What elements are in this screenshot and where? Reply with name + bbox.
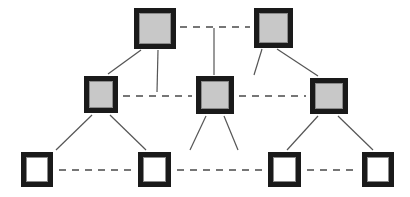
tier-link: [56, 115, 92, 150]
tier-link: [287, 116, 318, 150]
diagram-node[interactable]: [362, 152, 394, 187]
tier-link: [224, 116, 238, 150]
node-fill: [26, 157, 48, 182]
tier-link: [277, 49, 318, 76]
tier-link: [254, 49, 262, 75]
node-fill: [367, 157, 389, 182]
diagram-node[interactable]: [21, 152, 53, 187]
node-fill: [315, 83, 343, 109]
diagram-node[interactable]: [134, 8, 176, 49]
node-fill: [143, 157, 166, 182]
tier-link: [338, 116, 373, 150]
diagram-node[interactable]: [310, 78, 348, 114]
diagram-node[interactable]: [268, 152, 301, 187]
node-fill: [201, 81, 229, 109]
diagram-node[interactable]: [254, 8, 293, 48]
node-fill: [139, 13, 171, 44]
diagram-node[interactable]: [196, 76, 234, 114]
tier-link: [110, 115, 146, 150]
diagram-canvas: [0, 0, 410, 197]
tier-link: [108, 50, 141, 74]
tier-link: [190, 116, 206, 150]
node-fill: [259, 13, 288, 43]
tier-link: [157, 50, 158, 92]
diagram-node[interactable]: [138, 152, 171, 187]
diagram-node[interactable]: [84, 76, 118, 113]
node-fill: [273, 157, 296, 182]
node-fill: [89, 81, 113, 108]
